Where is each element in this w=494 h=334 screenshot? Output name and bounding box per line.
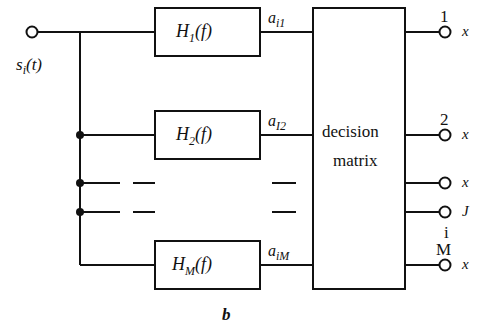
filter-2-arg: (f)	[195, 124, 212, 144]
decision-matrix-line2: matrix	[333, 152, 377, 169]
arm-m-subscript: iM	[276, 249, 289, 263]
bus-junction-dot-2	[76, 131, 84, 139]
arm-2-base: a	[268, 112, 276, 129]
filter-m-name: H	[172, 254, 185, 274]
diagram-lines	[0, 0, 494, 334]
bus-junction-dot-4	[76, 208, 84, 216]
input-terminal-circle	[27, 27, 38, 38]
arm-2-subscript: I2	[276, 119, 286, 133]
output-label-1: 1	[440, 8, 449, 25]
filter-label-1: H1(f)	[176, 22, 212, 44]
bus-junction-dot-3	[76, 179, 84, 187]
output-terminal-circle-m	[440, 260, 451, 271]
filter-1-name: H	[176, 21, 189, 41]
decision-matrix-line1: decision	[322, 123, 379, 140]
arm-m-base: a	[268, 242, 276, 259]
output-terminal-circle-1	[440, 27, 451, 38]
output-label-2: 2	[440, 111, 449, 128]
decision-matrix-box	[313, 8, 405, 289]
arm-1-base: a	[268, 9, 276, 26]
output-label-m: M	[436, 241, 451, 258]
output-label-i: i	[444, 224, 449, 241]
arm-label-2: aI2	[268, 113, 286, 132]
filter-m-subscript: M	[185, 264, 195, 278]
arm-label-m: aiM	[268, 243, 289, 262]
output-terminal-letter-2: x	[462, 127, 469, 142]
filter-m-arg: (f)	[195, 254, 212, 274]
output-terminal-letter-m: x	[462, 257, 469, 272]
block-diagram: si(t) H1(f) H2(f) HM(f) ai1 aI2 aiM deci…	[0, 0, 494, 334]
input-signal-label: si(t)	[16, 56, 42, 76]
arm-label-1: ai1	[268, 10, 285, 29]
input-signal-arg: (t)	[26, 55, 42, 74]
output-terminal-circle-4	[440, 207, 451, 218]
arm-1-subscript: i1	[276, 16, 285, 30]
filter-label-2: H2(f)	[176, 125, 212, 147]
input-signal-base: s	[16, 55, 23, 74]
figure-caption: b	[222, 306, 231, 323]
filter-1-arg: (f)	[195, 21, 212, 41]
output-terminal-circle-2	[440, 130, 451, 141]
output-terminal-letter-4: J	[462, 204, 469, 219]
output-terminal-letter-1: x	[462, 24, 469, 39]
output-terminal-circle-3	[440, 178, 451, 189]
output-terminal-letter-3: x	[462, 175, 469, 190]
filter-label-m: HM(f)	[172, 255, 212, 277]
filter-2-name: H	[176, 124, 189, 144]
